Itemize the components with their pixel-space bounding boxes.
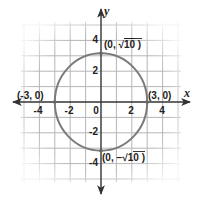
x-axis-label: x: [183, 86, 190, 100]
y-tick-label: 4: [92, 34, 98, 45]
svg-text:(0, −√10 ): (0, −√10 ): [102, 152, 145, 163]
x-tick-label: -4: [34, 105, 43, 116]
label-left: (-3, 0): [17, 90, 44, 101]
x-tick-label: 4: [159, 105, 165, 116]
y-tick-label: -4: [89, 157, 98, 168]
coordinate-graph: x y -4 -2 0 2 4 4 2 -2 -4 (0, √10 ) (0, …: [0, 0, 202, 208]
label-top: (0, √10 ): [104, 39, 142, 51]
label-right: (3, 0): [148, 90, 171, 101]
svg-text:(0, √10 ): (0, √10 ): [104, 39, 141, 50]
y-axis-label: y: [102, 4, 110, 18]
point-top: [99, 52, 103, 56]
label-bottom: (0, −√10 ): [102, 152, 145, 164]
point-left: [53, 100, 57, 104]
x-tick-label: -2: [65, 105, 74, 116]
x-tick-label: 2: [128, 105, 134, 116]
y-tick-label: -2: [89, 126, 98, 137]
x-tick-label: 0: [93, 105, 99, 116]
y-tick-label: 2: [92, 65, 98, 76]
